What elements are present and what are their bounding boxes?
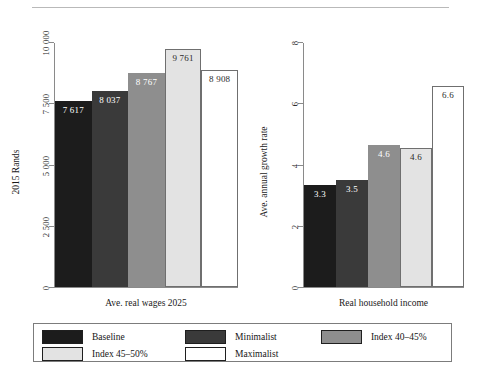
legend-item-label: Index 45–50% bbox=[92, 349, 148, 359]
bar: 8 037 bbox=[92, 91, 129, 287]
legend-item[interactable]: Index 40–45% bbox=[321, 329, 427, 344]
bar: 7 617 bbox=[55, 101, 92, 287]
bar-value-label: 4.6 bbox=[401, 152, 431, 162]
legend-color-swatch bbox=[185, 330, 226, 344]
bar-value-label: 8 767 bbox=[129, 77, 164, 87]
legend-item-label: Minimalist bbox=[235, 332, 277, 342]
legend-item[interactable]: Index 45–50% bbox=[42, 346, 148, 361]
legend-item[interactable]: Minimalist bbox=[185, 329, 277, 344]
y-axis-title-right: Ave. annual growth rate bbox=[259, 126, 269, 217]
bar: 8 908 bbox=[201, 70, 238, 287]
bar-value-label: 9 761 bbox=[166, 53, 201, 63]
legend-item-label: Index 40–45% bbox=[371, 332, 427, 342]
bar-group-right: 3.33.54.64.66.6 bbox=[304, 43, 464, 287]
legend-items: BaselineMinimalistIndex 40–45%Index 45–5… bbox=[42, 329, 445, 357]
legend-color-swatch bbox=[185, 347, 226, 361]
bar-value-label: 7 617 bbox=[56, 105, 91, 115]
bar-value-label: 3.3 bbox=[305, 189, 335, 199]
legend-color-swatch bbox=[42, 347, 83, 361]
bar: 9 761 bbox=[165, 49, 202, 287]
legend-color-swatch bbox=[42, 330, 83, 344]
plot-area-right: 02468 3.33.54.64.66.6 bbox=[303, 43, 464, 288]
top-divider-rule bbox=[32, 7, 449, 8]
chart-panel-real-wages: 2015 Rands 02 5005 0007 50010 000 7 6178… bbox=[6, 36, 244, 308]
plot-area-left: 02 5005 0007 50010 000 7 6178 0378 7679 … bbox=[54, 43, 238, 288]
x-axis-title-right: Real household income bbox=[303, 298, 464, 308]
legend-color-swatch bbox=[321, 330, 362, 344]
bar: 8 767 bbox=[128, 73, 165, 287]
legend-item-label: Baseline bbox=[92, 332, 125, 342]
legend-item[interactable]: Baseline bbox=[42, 329, 125, 344]
legend-item[interactable]: Maximalist bbox=[185, 346, 278, 361]
legend-item-label: Maximalist bbox=[235, 349, 278, 359]
bar: 6.6 bbox=[432, 86, 464, 287]
bar-value-label: 4.6 bbox=[369, 149, 399, 159]
y-axis-title-left: 2015 Rands bbox=[11, 149, 21, 194]
bar-value-label: 8 037 bbox=[93, 95, 128, 105]
bar-value-label: 8 908 bbox=[202, 74, 237, 84]
bar-group-left: 7 6178 0378 7679 7618 908 bbox=[55, 43, 238, 287]
x-axis-title-left: Ave. real wages 2025 bbox=[54, 298, 238, 308]
bar: 3.3 bbox=[304, 185, 336, 287]
bar: 4.6 bbox=[368, 145, 400, 287]
x-axis-line-right bbox=[303, 287, 464, 288]
x-axis-line-left bbox=[54, 287, 238, 288]
bar: 3.5 bbox=[336, 180, 368, 287]
figure: 2015 Rands 02 5005 0007 50010 000 7 6178… bbox=[0, 0, 481, 368]
bar-value-label: 6.6 bbox=[433, 90, 463, 100]
bar-value-label: 3.5 bbox=[337, 184, 367, 194]
chart-panel-household-income: Ave. annual growth rate 02468 3.33.54.64… bbox=[248, 36, 476, 308]
bar: 4.6 bbox=[400, 148, 432, 287]
chart-legend: BaselineMinimalistIndex 40–45%Index 45–5… bbox=[33, 323, 452, 362]
